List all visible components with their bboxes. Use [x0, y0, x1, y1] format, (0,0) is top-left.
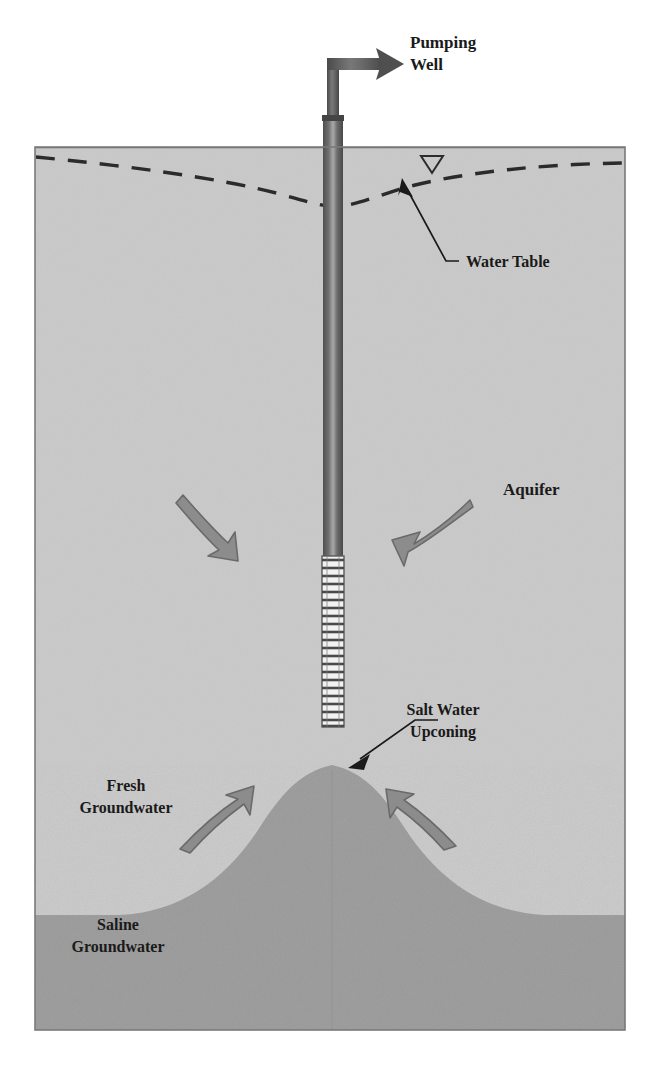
label-water-table: Water Table	[466, 253, 550, 270]
diagram-root: Pumping Well Water Table Aquifer Salt Wa…	[0, 0, 656, 1068]
label-aquifer: Aquifer	[503, 480, 560, 499]
discharge-pipe	[327, 48, 404, 120]
label-pumping-well-line1: Pumping	[410, 33, 477, 52]
label-saline-groundwater-line1: Saline	[97, 916, 139, 933]
well-casing	[323, 115, 343, 557]
well-screen	[322, 556, 344, 727]
label-saline-groundwater-line2: Groundwater	[71, 938, 164, 955]
label-fresh-groundwater-line2: Groundwater	[79, 799, 172, 816]
label-upconing-line1: Salt Water	[406, 701, 479, 718]
well-screen-body	[322, 556, 344, 727]
diagram-canvas: Pumping Well Water Table Aquifer Salt Wa…	[0, 0, 656, 1068]
label-upconing-line2: Upconing	[410, 723, 476, 741]
label-fresh-groundwater-line1: Fresh	[107, 777, 146, 794]
discharge-pipe-horizontal	[327, 58, 385, 70]
well-casing-top-collar	[322, 115, 344, 121]
label-pumping-well-line2: Well	[410, 55, 443, 74]
